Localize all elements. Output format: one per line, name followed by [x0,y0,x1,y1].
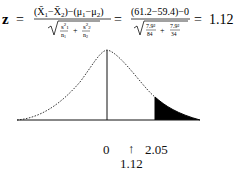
equals-sign-3: = [194,12,202,27]
z-symbol: z [2,11,9,27]
bell-curve [17,50,155,120]
general-fraction: (X̄1−X̄2)−(μ1−μ2) s21 n1 + s22 n2 [34,6,111,39]
critical-value-label: 2.05 [145,142,168,158]
numeric-fraction: (61.2−59.4)−0 7.9² 84 + 7.9² 34 [131,6,190,37]
svg-text:s22: s22 [83,22,91,31]
normal-curve-diagram [0,40,236,130]
center-label: 0 [103,142,110,158]
shaded-rejection-region [155,97,200,120]
general-numerator: (X̄1−X̄2)−(μ1−μ2) [34,6,103,19]
n2-value: 34 [171,31,177,37]
arrow-up-icon: ↑ [128,141,135,157]
svg-text:+: + [160,26,165,35]
equals-sign-1: = [16,12,24,27]
svg-text:n2: n2 [83,32,88,39]
z-test-formula: z = (X̄1−X̄2)−(μ1−μ2) s21 n1 + s22 n2 = … [0,0,236,40]
general-denominator: s21 [61,22,69,31]
test-statistic-label: 1.12 [120,156,143,172]
result-value: 1.12 [209,12,234,27]
svg-text:n1: n1 [61,32,66,39]
s2-squared: 7.9² [170,23,180,29]
numeric-numerator: (61.2−59.4)−0 [131,6,189,18]
svg-text:+: + [73,26,78,35]
s1-squared: 7.9² [146,23,156,29]
equals-sign-2: = [114,12,122,27]
n1-value: 84 [147,31,153,37]
